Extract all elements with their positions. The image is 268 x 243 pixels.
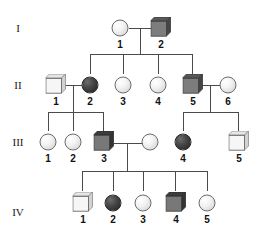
individual-i-1[interactable]: [112, 20, 129, 37]
generation-label-iii: III: [13, 136, 24, 148]
individual-iv-3[interactable]: [135, 195, 152, 212]
descent-line-iii3-spouse: [127, 143, 128, 171]
female-circle-icon: [175, 134, 192, 151]
female-circle-icon: [220, 77, 237, 94]
individual-iv-2[interactable]: [105, 195, 122, 212]
drop-line-iii2: [73, 112, 74, 131]
female-circle-icon: [199, 195, 216, 212]
individual-label-ii-6: 6: [225, 96, 231, 107]
male-square-icon: [46, 74, 67, 94]
individual-label-ii-1: 1: [53, 96, 59, 107]
pedigree-chart: I II III IV 1 2: [0, 0, 268, 243]
individual-label-iii-3: 3: [101, 153, 107, 164]
mating-line-ii5-ii6: [202, 85, 220, 86]
individual-label-iii-1: 1: [45, 153, 51, 164]
individual-iv-1[interactable]: [73, 192, 94, 212]
individual-i-2[interactable]: [151, 17, 172, 37]
individual-ii-5[interactable]: [183, 74, 204, 94]
individual-label-iii-5: 5: [236, 153, 242, 164]
female-circle-icon: [40, 134, 57, 151]
female-circle-icon: [135, 195, 152, 212]
generation-label-i: I: [16, 22, 20, 34]
individual-ii-2[interactable]: [82, 77, 99, 94]
individual-label-i-1: 1: [117, 39, 123, 50]
individual-iii-2[interactable]: [65, 134, 82, 151]
individual-ii-6[interactable]: [220, 77, 237, 94]
individual-iv-5[interactable]: [199, 195, 216, 212]
drop-line-iv4: [175, 171, 176, 191]
individual-iii-3[interactable]: [94, 131, 115, 151]
male-square-icon: [94, 131, 115, 151]
female-circle-icon: [65, 134, 82, 151]
individual-iii-1[interactable]: [40, 134, 57, 151]
female-circle-icon: [112, 20, 129, 37]
drop-line-iv1: [82, 171, 83, 191]
male-square-icon: [151, 17, 172, 37]
individual-label-iv-2: 2: [110, 214, 116, 225]
descent-line-ii5-ii6: [210, 85, 211, 112]
individual-ii-4[interactable]: [150, 77, 167, 94]
individual-ii-3[interactable]: [115, 77, 132, 94]
individual-label-iii-2: 2: [70, 153, 76, 164]
male-square-icon: [229, 131, 250, 151]
sibship-bar-gen2: [90, 54, 193, 55]
drop-line-iii5: [238, 112, 239, 131]
descent-line-ii1-ii2: [73, 85, 74, 112]
male-square-icon: [166, 192, 187, 212]
drop-line-iv5: [207, 171, 208, 191]
female-circle-icon: [142, 134, 159, 151]
individual-label-iv-4: 4: [173, 214, 179, 225]
sibship-bar-gen3-left: [48, 112, 104, 113]
male-square-icon: [73, 192, 94, 212]
drop-line-iv3: [143, 171, 144, 191]
individual-label-iv-5: 5: [204, 214, 210, 225]
individual-label-iv-1: 1: [80, 214, 86, 225]
female-circle-icon: [105, 195, 122, 212]
generation-label-ii: II: [14, 79, 21, 91]
individual-iii-4[interactable]: [175, 134, 192, 151]
individual-iii-3-spouse[interactable]: [142, 134, 159, 151]
drop-line-ii2: [90, 54, 91, 74]
drop-line-iii4: [183, 112, 184, 131]
individual-label-ii-3: 3: [120, 96, 126, 107]
drop-line-iii1: [48, 112, 49, 131]
drop-line-ii4: [158, 54, 159, 74]
individual-iv-4[interactable]: [166, 192, 187, 212]
drop-line-iii3: [103, 112, 104, 131]
individual-label-ii-5: 5: [190, 96, 196, 107]
female-circle-icon: [115, 77, 132, 94]
individual-label-i-2: 2: [158, 39, 164, 50]
descent-line-gen1: [140, 28, 141, 54]
individual-label-ii-4: 4: [155, 96, 161, 107]
drop-line-iv2: [113, 171, 114, 191]
male-square-icon: [183, 74, 204, 94]
drop-line-ii5: [192, 54, 193, 74]
drop-line-ii3: [123, 54, 124, 74]
generation-label-iv: IV: [12, 206, 24, 218]
individual-label-ii-2: 2: [87, 96, 93, 107]
individual-ii-1[interactable]: [46, 74, 67, 94]
sibship-bar-gen3-right: [183, 112, 239, 113]
female-circle-icon: [82, 77, 99, 94]
individual-label-iii-4: 4: [180, 153, 186, 164]
sibship-bar-gen4: [82, 171, 208, 172]
individual-label-iv-3: 3: [140, 214, 146, 225]
female-circle-icon: [150, 77, 167, 94]
individual-iii-5[interactable]: [229, 131, 250, 151]
